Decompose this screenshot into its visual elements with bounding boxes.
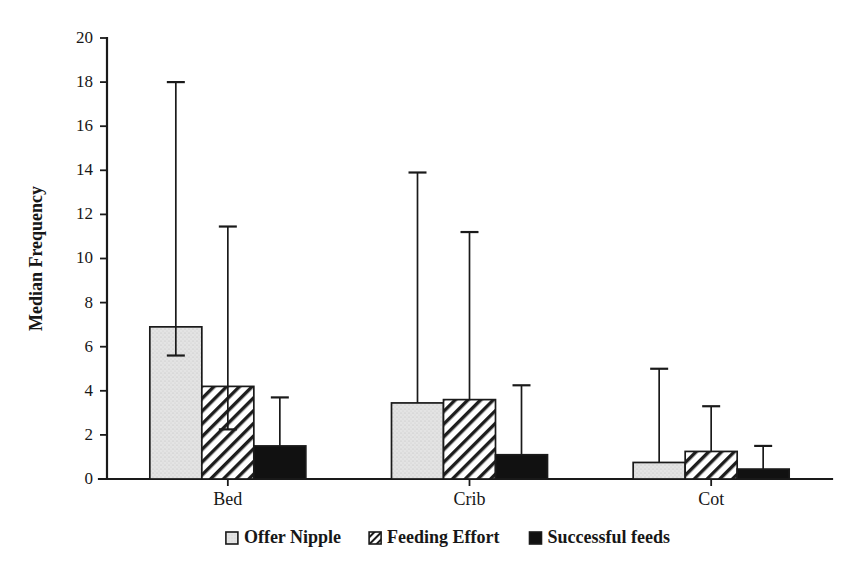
y-tick-label: 8 <box>85 293 94 312</box>
error-bar-crib-successful-feeds <box>513 385 531 454</box>
y-tick-label: 6 <box>85 337 94 356</box>
y-tick-label: 2 <box>85 425 94 444</box>
bar-crib-offer-nipple <box>392 403 444 479</box>
legend-label: Successful feeds <box>548 527 671 547</box>
error-bar-crib-offer-nipple <box>409 173 427 403</box>
error-bar-cot-offer-nipple <box>650 369 668 463</box>
error-bar-cot-feeding-effort <box>702 406 720 451</box>
bar-chart: 02468101214161820Median FrequencyBedCrib… <box>0 0 862 565</box>
legend-swatch-light-gray-stipple <box>226 532 238 544</box>
chart-page: 02468101214161820Median FrequencyBedCrib… <box>0 0 862 565</box>
bar-group-bed: Bed <box>150 82 306 509</box>
error-bar-cot-successful-feeds <box>754 446 772 469</box>
legend-item-feeding-effort[interactable]: Feeding Effort <box>369 527 499 547</box>
legend-item-successful-feeds[interactable]: Successful feeds <box>530 527 671 547</box>
x-axis-label-cot: Cot <box>698 489 724 509</box>
y-axis-ticks: 02468101214161820 <box>76 28 107 488</box>
bar-group-crib: Crib <box>392 173 548 509</box>
legend-swatch-solid-black <box>530 532 542 544</box>
y-tick-label: 16 <box>76 116 93 135</box>
bar-cot-successful-feeds <box>737 469 789 479</box>
y-tick-label: 12 <box>76 204 93 223</box>
y-tick-label: 0 <box>85 469 94 488</box>
x-axis-label-crib: Crib <box>453 489 485 509</box>
y-tick-label: 10 <box>76 248 93 267</box>
error-bar-bed-successful-feeds <box>271 397 289 446</box>
error-bar-bed-offer-nipple <box>167 82 185 355</box>
y-axis-title: Median Frequency <box>26 186 46 331</box>
bar-cot-offer-nipple <box>633 462 685 479</box>
y-tick-label: 20 <box>76 28 93 47</box>
legend-label: Feeding Effort <box>387 527 499 547</box>
bar-crib-successful-feeds <box>496 455 548 479</box>
legend: Offer NippleFeeding EffortSuccessful fee… <box>226 527 670 547</box>
y-tick-label: 14 <box>76 160 94 179</box>
x-axis-label-bed: Bed <box>213 489 242 509</box>
y-tick-label: 18 <box>76 72 93 91</box>
bar-bed-successful-feeds <box>254 446 306 479</box>
bar-crib-feeding-effort <box>444 400 496 479</box>
bar-group-cot: Cot <box>633 369 789 509</box>
bar-cot-feeding-effort <box>685 451 737 479</box>
legend-label: Offer Nipple <box>244 527 341 547</box>
legend-swatch-diagonal-hatch <box>369 532 381 544</box>
legend-item-offer-nipple[interactable]: Offer Nipple <box>226 527 341 547</box>
y-tick-label: 4 <box>85 381 94 400</box>
error-bar-crib-feeding-effort <box>461 232 479 400</box>
